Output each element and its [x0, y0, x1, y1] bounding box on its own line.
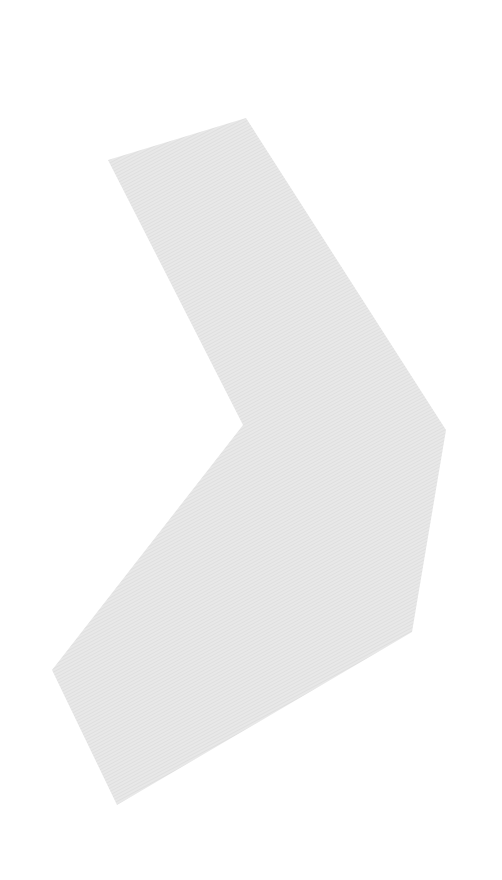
chevron-graphic: [0, 0, 502, 880]
chevron-shape: [52, 118, 446, 805]
canvas: [0, 0, 502, 880]
